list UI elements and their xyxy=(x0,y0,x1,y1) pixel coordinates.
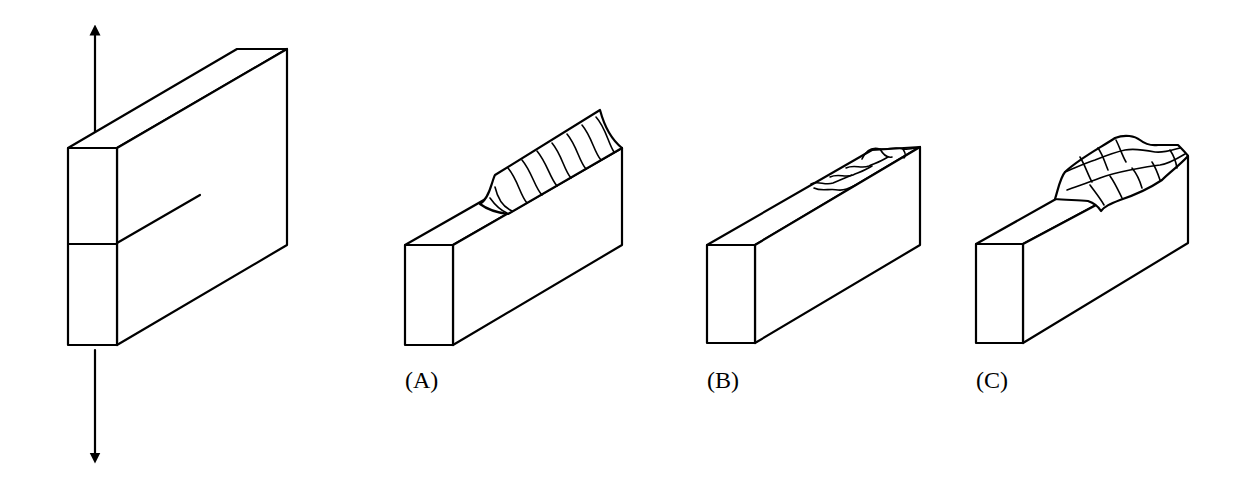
panel-b-label: (B) xyxy=(707,367,739,393)
panel-a-label: (A) xyxy=(405,367,438,393)
fracture-modes-diagram: (A) (B) xyxy=(0,0,1259,481)
panel-a-front-face xyxy=(405,245,453,345)
panel-b: (B) xyxy=(707,147,920,393)
plate-front-face xyxy=(68,148,117,345)
loaded-plate xyxy=(68,30,287,458)
panel-c-front-face xyxy=(976,244,1023,343)
panel-b-front-face xyxy=(707,245,755,343)
panel-a: (A) xyxy=(405,110,622,393)
panel-c-label: (C) xyxy=(976,367,1008,393)
panel-c: (C) xyxy=(976,136,1188,393)
